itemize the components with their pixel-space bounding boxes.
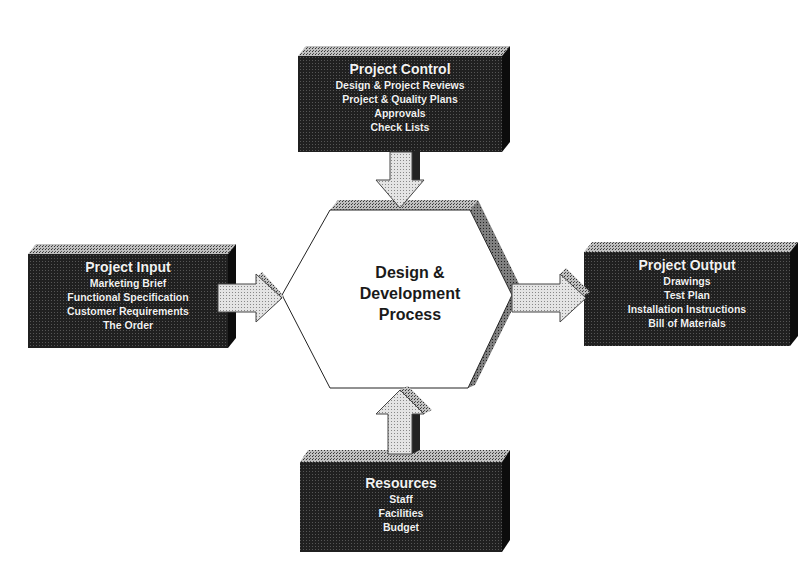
project-output-text: Project Output Drawings Test Plan Instal… (584, 256, 790, 330)
project-output-item: Bill of Materials (584, 316, 790, 330)
project-output-title: Project Output (584, 256, 790, 274)
project-control-item: Approvals (298, 106, 502, 120)
project-control-item: Project & Quality Plans (298, 92, 502, 106)
resources-title: Resources (300, 474, 502, 492)
project-output-item: Installation Instructions (584, 302, 790, 316)
process-label-line: Development (330, 283, 490, 304)
arrow-process-to-output (512, 268, 590, 322)
project-input-text: Project Input Marketing Brief Functional… (28, 258, 228, 332)
project-input-item: The Order (28, 318, 228, 332)
project-input-title: Project Input (28, 258, 228, 276)
project-input-item: Marketing Brief (28, 276, 228, 290)
project-input-item: Customer Requirements (28, 304, 228, 318)
project-input-item: Functional Specification (28, 290, 228, 304)
project-control-title: Project Control (298, 60, 502, 78)
resources-item: Budget (300, 520, 502, 534)
project-control-item: Design & Project Reviews (298, 78, 502, 92)
process-label: Design & Development Process (330, 262, 490, 325)
project-output-item: Drawings (584, 274, 790, 288)
project-control-item: Check Lists (298, 120, 502, 134)
arrow-resources-to-process (376, 386, 432, 454)
resources-item: Facilities (300, 506, 502, 520)
process-label-line: Process (330, 304, 490, 325)
arrow-control-to-process (376, 148, 424, 208)
resources-text: Resources Staff Facilities Budget (300, 474, 502, 534)
project-output-item: Test Plan (584, 288, 790, 302)
resources-item: Staff (300, 492, 502, 506)
process-label-line: Design & (330, 262, 490, 283)
project-control-text: Project Control Design & Project Reviews… (298, 60, 502, 134)
